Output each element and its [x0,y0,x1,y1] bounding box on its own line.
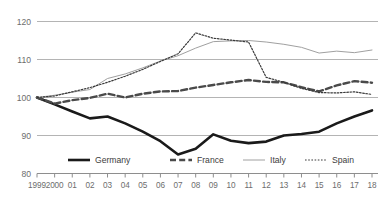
x-tick-label-12: 12 [262,181,271,190]
chart-legend: GermanyFranceItalySpain [68,155,354,165]
series-line-germany [37,98,372,155]
x-tick-label-01: 01 [68,181,77,190]
x-tick-label-13: 13 [279,181,288,190]
legend-label-germany: Germany [95,155,131,165]
x-tick-label-11: 11 [244,181,253,190]
x-tick-label-17: 17 [350,181,359,190]
x-tick-label-06: 06 [156,181,165,190]
x-tick-label-10: 10 [226,181,235,190]
x-tick-label-05: 05 [138,181,147,190]
x-tick-label-15: 15 [315,181,324,190]
x-tick-label-07: 07 [174,181,183,190]
y-axis-tick-labels: 120 110 100 90 80 [17,17,32,179]
x-tick-label-08: 08 [191,181,200,190]
x-tick-label-14: 14 [297,181,306,190]
y-tick-label-110: 110 [17,55,31,65]
x-axis-ticks [37,174,372,178]
series-line-spain [37,33,372,98]
y-tick-label-100: 100 [17,93,32,103]
x-tick-label-04: 04 [121,181,130,190]
x-tick-label-02: 02 [85,181,94,190]
x-tick-label-03: 03 [103,181,112,190]
x-axis-tick-labels: 1999200001020304050607080910111213141516… [28,181,377,190]
x-tick-label-16: 16 [332,181,341,190]
legend-label-france: France [197,155,224,165]
x-tick-label-18: 18 [368,181,377,190]
legend-label-spain: Spain [332,155,354,165]
y-tick-label-120: 120 [17,17,32,27]
line-chart: 120 110 100 90 80 1999200001020304050607… [0,0,392,202]
x-tick-label-2000: 2000 [46,181,64,190]
series-line-italy [37,41,372,98]
y-tick-label-90: 90 [21,131,31,141]
legend-label-italy: Italy [270,155,286,165]
chart-canvas: 120 110 100 90 80 1999200001020304050607… [0,0,392,202]
data-series-group [37,33,372,155]
y-tick-label-80: 80 [21,169,31,179]
series-line-france [37,80,372,104]
x-tick-label-09: 09 [209,181,218,190]
x-tick-label-1999: 1999 [28,181,46,190]
